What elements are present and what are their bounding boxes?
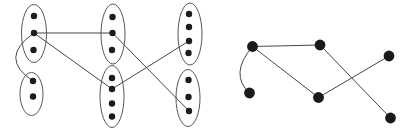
sub-vertex-dot-d2 xyxy=(109,86,115,92)
sub-vertex-dot-b1 xyxy=(30,78,36,84)
sub-vertex-dot-e1 xyxy=(186,11,192,17)
partition-edge-line xyxy=(34,33,112,89)
sub-vertex-dot-a1 xyxy=(31,13,37,19)
partition-edge-curve xyxy=(16,33,34,81)
quotient-edge-line xyxy=(253,45,321,47)
sub-vertex-dot-c1 xyxy=(109,14,115,20)
quotient-node-C xyxy=(384,51,395,62)
sub-vertex-dot-c3 xyxy=(109,47,115,53)
graph-partition-diagram xyxy=(0,0,413,133)
sub-vertex-dot-d4 xyxy=(109,113,115,119)
quotient-node-E xyxy=(313,92,324,103)
quotient-edge-line xyxy=(253,47,319,98)
quotient-edge-line xyxy=(320,45,391,118)
quotient-edge-curve xyxy=(240,47,253,94)
sub-vertex-dot-f1 xyxy=(185,77,191,83)
sub-vertex-dot-a3 xyxy=(30,47,36,53)
sub-vertex-dot-d3 xyxy=(109,100,115,106)
quotient-node-A xyxy=(247,41,258,52)
sub-vertex-dot-d1 xyxy=(109,75,115,81)
sub-vertex-dot-e4 xyxy=(185,50,191,56)
quotient-edge-line xyxy=(319,56,390,98)
sub-vertex-dot-f3 xyxy=(186,108,192,114)
sub-vertex-dot-f2 xyxy=(185,94,191,100)
sub-vertex-dot-e2 xyxy=(186,24,192,30)
sub-vertex-dot-b2 xyxy=(30,93,36,99)
quotient-node-B xyxy=(315,40,326,51)
sub-vertex-dot-e3 xyxy=(186,38,192,44)
sub-vertex-dot-a2 xyxy=(31,30,37,36)
quotient-node-D xyxy=(244,88,255,99)
quotient-node-F xyxy=(385,113,396,124)
sub-vertex-dot-c2 xyxy=(109,30,115,36)
figure-canvas xyxy=(0,0,413,133)
